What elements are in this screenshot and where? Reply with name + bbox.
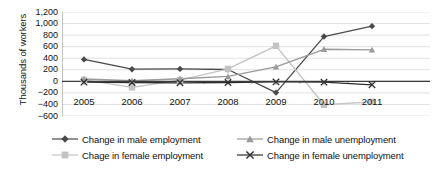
legend-label: Change in male unemployment	[267, 134, 396, 145]
chart-legend: Change in male employment Chage in femal…	[52, 133, 441, 167]
y-axis-tick-label: 800	[22, 31, 58, 40]
x-axis-tick-label: 2010	[299, 97, 349, 107]
legend-item-male-unemployment[interactable]: Change in male unemployment	[237, 133, 396, 145]
y-axis-tick-label: −400	[22, 100, 58, 109]
x-axis-tick-label: 2009	[251, 97, 301, 107]
y-axis-tick-label: 600	[22, 42, 58, 51]
x-axis-tick-label: 2005	[59, 97, 109, 107]
x-marker-icon	[237, 149, 263, 161]
legend-label: Chage in female employment	[82, 150, 203, 161]
square-marker-icon	[52, 149, 78, 161]
y-axis-tick-label: 200	[22, 65, 58, 74]
diamond-marker-icon	[52, 133, 78, 145]
x-axis-tick-label: 2008	[203, 97, 253, 107]
y-axis-tick-label: 0	[22, 77, 58, 86]
y-axis-tick-label: 1,200	[22, 8, 58, 17]
y-axis-tick-label: 400	[22, 54, 58, 63]
x-axis-tick-label: 2006	[107, 97, 157, 107]
legend-item-male-employment[interactable]: Change in male employment	[52, 133, 200, 145]
y-axis-tick-label: −600	[22, 112, 58, 121]
y-axis-tick-label: −200	[22, 88, 58, 97]
line-chart: Thousands of workers 1,2001,000800600400…	[0, 0, 441, 171]
x-axis-tick-label: 2011	[347, 97, 397, 107]
y-axis-tick-label: 1,000	[22, 19, 58, 28]
x-axis-tick-label: 2007	[155, 97, 205, 107]
legend-item-female-employment[interactable]: Chage in female employment	[52, 149, 203, 161]
legend-item-female-unemployment[interactable]: Change in female unemployment	[237, 149, 404, 161]
legend-label: Change in female unemployment	[267, 150, 404, 161]
triangle-marker-icon	[237, 133, 263, 145]
legend-label: Change in male employment	[82, 134, 200, 145]
